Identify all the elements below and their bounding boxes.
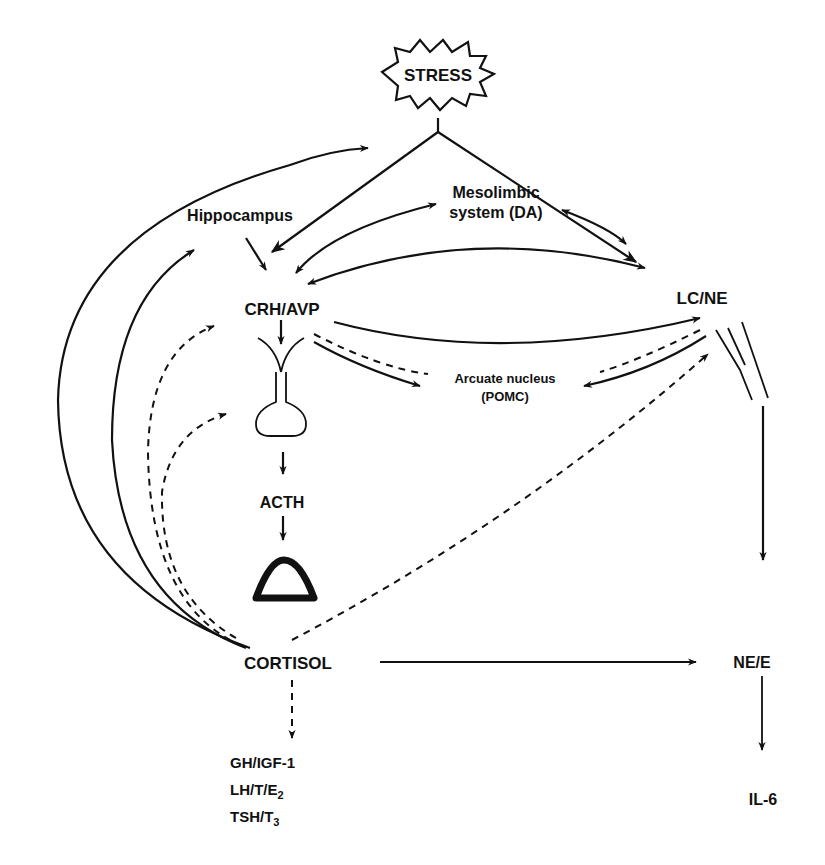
stress-label: STRESS [404,66,472,85]
arcuate-label-line2: (POMC) [481,389,529,404]
cortisol-to-pituitary-dashed-arrow [162,414,236,638]
arcuate-label-line1: Arcuate nucleus [454,371,555,386]
lc-ne-label: LC/NE [677,289,728,308]
hippocampus-label: Hippocampus [187,207,293,224]
gh-igf-label: GH/IGF-1 [230,754,295,771]
lh-t-e2-label: LH/T/E2 [230,781,284,801]
crh-lc-bidirectional-arrow [308,248,645,284]
cortisol-to-hippocampus-arrow [112,250,246,648]
pituitary-gland [256,338,306,436]
cortisol-label: CORTISOL [244,654,332,673]
acth-label: ACTH [260,494,304,511]
tsh-t3-label: TSH/T3 [230,808,279,828]
adrenal-gland [256,560,314,598]
mesolimbic-label-line2: system (DA) [449,204,542,221]
hippocampus-to-crh-arrow [246,238,266,270]
crh-avp-label: CRH/AVP [244,300,319,319]
stress-starburst: STRESS [382,40,494,110]
mesolimbic-lc-arrow [562,210,626,244]
il6-label: IL-6 [749,791,778,808]
mesolimbic-label-line1: Mesolimbic [452,184,539,201]
ne-e-label: NE/E [733,654,771,671]
crh-to-arcuate-arrow [314,342,420,386]
mesolimbic-crh-arrow [296,204,436,273]
crh-to-lc-arrow [334,318,700,343]
cortisol-to-crh-dashed-arrow [148,326,242,646]
lc-to-arcuate-arrow [584,336,706,386]
sympathetic-fibers [716,322,768,400]
stress-system-diagram: STRESS Mesolimbic system (DA) Hippocampu… [0,0,825,865]
